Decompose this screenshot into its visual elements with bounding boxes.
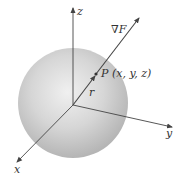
radius-label: r	[89, 87, 94, 98]
nabla-symbol: ∇	[111, 23, 119, 36]
point-label: P (x, y, z)	[101, 68, 151, 79]
x-axis-label: x	[14, 164, 20, 175]
sphere-gradient-diagram: z y x ∇F P (x, y, z) r	[0, 0, 184, 180]
y-axis-label: y	[166, 128, 172, 139]
point-p-dot	[94, 72, 97, 75]
gradient-variable: F	[119, 23, 127, 36]
gradient-label: ∇F	[111, 24, 126, 35]
z-axis-label: z	[77, 6, 83, 17]
